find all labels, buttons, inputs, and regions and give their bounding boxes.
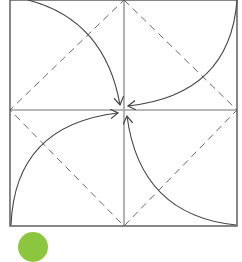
bottom-left-corner-arrow bbox=[11, 113, 118, 225]
bottom-right-corner-arrow bbox=[127, 116, 236, 225]
step-number-badge bbox=[18, 232, 48, 262]
top-left-corner-arrow bbox=[28, 0, 120, 105]
top-right-corner-arrow bbox=[128, 0, 237, 106]
